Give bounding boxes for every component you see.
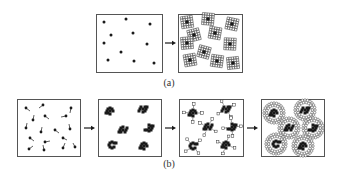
grain: [208, 26, 222, 40]
grain: [226, 56, 239, 69]
caption-a: (a): [154, 77, 184, 88]
figure-canvas: [0, 0, 338, 183]
grain: [210, 54, 224, 68]
grain: [180, 36, 193, 49]
arrow-right-icon: [84, 126, 95, 130]
row-b-diagram: [18, 99, 325, 158]
grain: [201, 12, 214, 25]
arrow-right-icon: [165, 41, 176, 45]
grain: [224, 38, 237, 51]
arrow-right-icon: [165, 126, 176, 130]
grain: [225, 17, 239, 31]
grain: [183, 53, 197, 67]
grain: [180, 15, 194, 29]
panel-a1: [97, 15, 163, 73]
arrow-right-icon: [247, 126, 258, 130]
caption-b: (b): [154, 158, 184, 169]
row-a-diagram: [97, 12, 243, 72]
